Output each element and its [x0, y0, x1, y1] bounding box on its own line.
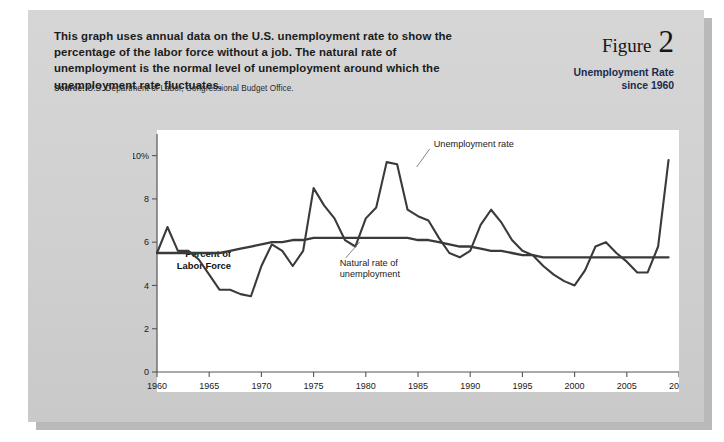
x-tick-label: 2010	[669, 381, 679, 391]
y-tick-label: 10%	[133, 151, 149, 161]
x-tick-label: 1960	[147, 381, 167, 391]
chart-area: Percent of Labor Force 0246810%196019651…	[133, 130, 679, 392]
source-label: Source:	[54, 84, 85, 93]
annotation-natural-rate-line1: Natural rate of	[340, 258, 399, 268]
figure-subtitle-line2: since 1960	[574, 79, 674, 92]
annotation-unemployment-rate: Unemployment rate	[434, 139, 514, 149]
figure-card: This graph uses annual data on the U.S. …	[28, 10, 704, 422]
annotation-leader-unemployment	[417, 149, 430, 167]
x-tick-label: 1980	[356, 381, 376, 391]
figure-label: Figure	[602, 35, 652, 57]
source-text: U.S. Department of Labor, Congressional …	[87, 84, 293, 93]
annotation-natural-rate-line2: unemployment	[340, 269, 401, 279]
x-tick-label: 2005	[617, 381, 637, 391]
figure-subtitle-line1: Unemployment Rate	[574, 66, 674, 79]
y-tick-label: 8	[144, 194, 149, 204]
y-tick-label: 4	[144, 281, 149, 291]
figure-subtitle: Unemployment Rate since 1960	[574, 66, 674, 93]
x-tick-label: 1985	[408, 381, 428, 391]
x-tick-label: 2000	[565, 381, 585, 391]
y-tick-label: 2	[144, 324, 149, 334]
figure-source: Source: U.S. Department of Labor, Congre…	[54, 84, 484, 93]
x-tick-label: 1990	[460, 381, 480, 391]
y-tick-label: 0	[144, 367, 149, 377]
unemployment-rate-line	[157, 160, 669, 296]
figure-number: 2	[659, 28, 675, 55]
figure-page: This graph uses annual data on the U.S. …	[0, 0, 724, 442]
y-tick-label: 6	[144, 237, 149, 247]
line-chart: 0246810%19601965197019751980198519901995…	[133, 130, 679, 392]
x-tick-label: 1995	[512, 381, 532, 391]
figure-heading: Figure 2 Unemployment Rate since 1960	[574, 28, 674, 93]
x-tick-label: 1970	[251, 381, 271, 391]
x-tick-label: 1965	[199, 381, 219, 391]
x-tick-label: 1975	[304, 381, 324, 391]
